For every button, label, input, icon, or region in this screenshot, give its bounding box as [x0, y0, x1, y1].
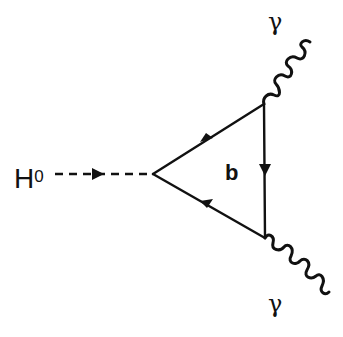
photon-label-bottom: γ — [268, 292, 282, 316]
higgs-arrow-icon — [92, 168, 104, 180]
photon-label-top: γ — [268, 10, 282, 34]
feynman-diagram — [0, 0, 343, 337]
higgs-charge-superscript: 0 — [34, 167, 43, 186]
higgs-label: H0 — [14, 165, 44, 193]
photon-line-top — [264, 41, 310, 104]
quark-label: b — [225, 162, 238, 184]
quark-line-lower — [153, 174, 265, 238]
higgs-symbol: H — [14, 163, 34, 194]
quark-loop — [153, 104, 265, 238]
quark-right-arrow-icon — [259, 164, 271, 176]
photon-line-bottom — [265, 235, 329, 294]
